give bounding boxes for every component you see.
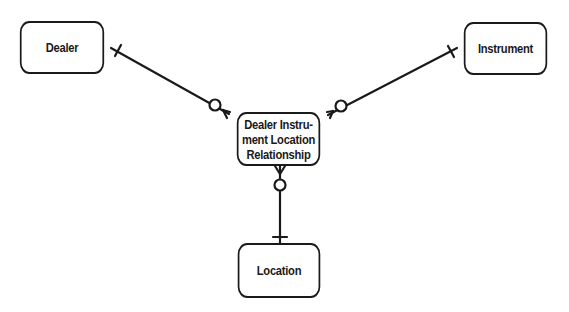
entity-label: Instrument — [478, 41, 533, 56]
entity-location[interactable]: Location — [238, 243, 321, 298]
label-line-3: Relationship — [242, 147, 315, 162]
entity-label: Location — [257, 263, 302, 278]
connector-dealer-relationship — [111, 45, 230, 118]
zero-circle-icon — [275, 180, 286, 191]
entity-label: Dealer Instru- ment Location Relationshi… — [242, 117, 315, 162]
label-line-1: Dealer Instru- — [242, 117, 315, 132]
connector-instrument-relationship — [327, 46, 457, 118]
entity-dealer[interactable]: Dealer — [20, 21, 104, 74]
label-line-2: ment Location — [242, 132, 315, 147]
connector-location-relationship — [273, 166, 287, 243]
entity-label: Dealer — [46, 40, 79, 55]
zero-circle-icon — [336, 101, 347, 112]
zero-circle-icon — [210, 100, 221, 111]
entity-instrument[interactable]: Instrument — [464, 22, 547, 75]
entity-dealer-instrument-location-relationship[interactable]: Dealer Instru- ment Location Relationshi… — [237, 112, 320, 166]
